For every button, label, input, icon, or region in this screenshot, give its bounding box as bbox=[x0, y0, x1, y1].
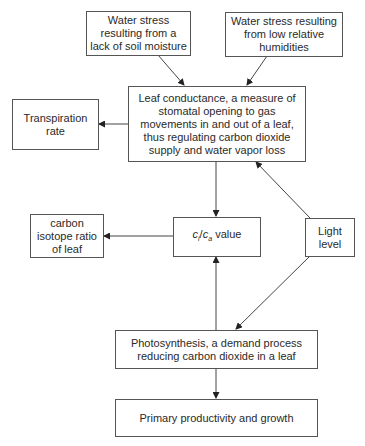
node-leaf-conductance: Leaf conductance, a measure of stomatal … bbox=[128, 86, 306, 162]
arrow-humidity-to-leaf bbox=[247, 56, 267, 85]
node-light-label: Light level bbox=[309, 225, 351, 251]
node-soil-moisture: Water stress resulting from a lack of so… bbox=[86, 11, 191, 56]
node-photosynthesis-label: Photosynthesis, a demand process reducin… bbox=[119, 337, 314, 363]
node-photosynthesis: Photosynthesis, a demand process reducin… bbox=[115, 330, 318, 369]
node-humidity: Water stress resulting from low relative… bbox=[225, 12, 343, 57]
node-ci-ca: ci/ca value bbox=[173, 217, 261, 257]
node-transpiration: Transpiration rate bbox=[12, 99, 99, 150]
node-productivity: Primary productivity and growth bbox=[115, 399, 318, 437]
node-light: Light level bbox=[305, 218, 355, 257]
node-transpiration-label: Transpiration rate bbox=[16, 112, 95, 138]
arrow-soil-to-leaf bbox=[158, 55, 184, 85]
node-carbon-isotope-label: carbon isotope ratio of leaf bbox=[34, 217, 100, 256]
node-carbon-isotope: carbon isotope ratio of leaf bbox=[30, 214, 104, 258]
node-productivity-label: Primary productivity and growth bbox=[139, 412, 293, 425]
node-leaf-conductance-label: Leaf conductance, a measure of stomatal … bbox=[135, 92, 299, 157]
node-humidity-label: Water stress resulting from low relative… bbox=[229, 15, 339, 54]
node-ci-ca-label: ci/ca value bbox=[193, 228, 242, 245]
arrow-light-to-photosynthesis bbox=[236, 256, 310, 329]
node-soil-moisture-label: Water stress resulting from a lack of so… bbox=[90, 14, 187, 53]
arrow-light-to-leaf bbox=[256, 162, 310, 218]
